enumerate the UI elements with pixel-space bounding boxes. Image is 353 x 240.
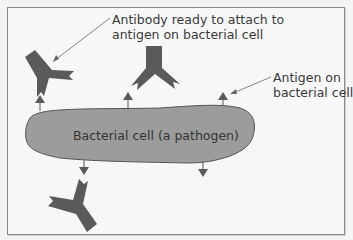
antibody-leader-line bbox=[55, 18, 110, 60]
antibody-label: Antibody ready to attach to antigen on b… bbox=[112, 12, 284, 42]
antigen-icon bbox=[123, 92, 133, 108]
antibody-icon bbox=[25, 50, 74, 97]
bacterial-cell-label: Bacterial cell (a pathogen) bbox=[73, 128, 239, 143]
antigen-label-line2: bacterial cell bbox=[273, 85, 353, 100]
antigen-icon bbox=[35, 95, 45, 111]
antigen-icon bbox=[79, 160, 89, 175]
antigen-label-line1: Antigen on bbox=[273, 70, 353, 85]
antigen-leader-line bbox=[233, 77, 271, 93]
antigen-icon bbox=[218, 92, 228, 106]
antibody-label-line2: antigen on bacterial cell bbox=[112, 27, 284, 42]
antibody-label-line1: Antibody ready to attach to bbox=[112, 12, 284, 27]
antigen-leader-arrowhead bbox=[230, 89, 237, 94]
antigen-icon bbox=[198, 162, 208, 177]
antibody-icon bbox=[131, 46, 180, 90]
antigen-label: Antigen on bacterial cell bbox=[273, 70, 353, 100]
antibody-icon bbox=[48, 179, 97, 232]
antibody-leader-arrowhead bbox=[53, 55, 59, 62]
